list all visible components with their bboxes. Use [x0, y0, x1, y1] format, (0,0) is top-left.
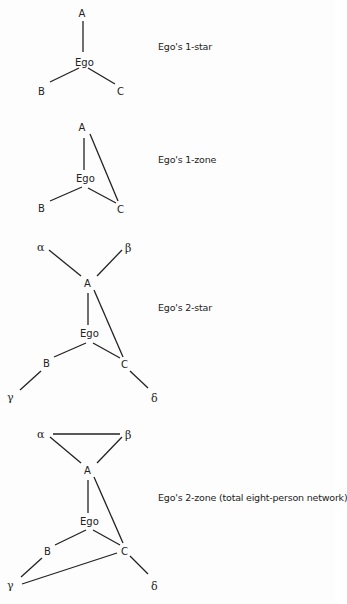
panel-two-star: α β A Ego B C γ δ	[7, 241, 158, 405]
edge-ego-b	[50, 187, 82, 201]
node-ego: Ego	[80, 328, 99, 339]
edge-ego-b	[55, 530, 86, 545]
node-c: C	[117, 86, 124, 97]
edge-b-gamma	[20, 371, 41, 390]
node-beta: β	[125, 242, 131, 255]
node-gamma: γ	[7, 579, 14, 592]
node-b: B	[38, 203, 45, 214]
caption-two-zone: Ego's 2-zone (total eight-person network…	[158, 492, 347, 503]
caption-one-star: Ego's 1-star	[158, 41, 212, 52]
edge-b-gamma	[21, 558, 42, 577]
node-b: B	[38, 86, 45, 97]
node-ego: Ego	[76, 173, 95, 184]
node-b: B	[44, 546, 51, 557]
panel-one-star: A Ego B C	[38, 8, 124, 97]
edge-alpha-a	[50, 437, 81, 463]
node-a: A	[79, 122, 86, 133]
node-c: C	[121, 359, 128, 370]
edge-ego-c	[88, 68, 115, 84]
caption-one-zone: Ego's 1-zone	[158, 154, 216, 165]
node-b: B	[43, 358, 50, 369]
edge-c-delta	[130, 556, 148, 574]
edge-c-delta	[130, 371, 148, 388]
node-beta: β	[125, 429, 131, 442]
caption-two-star: Ego's 2-star	[158, 302, 212, 313]
node-alpha: α	[37, 241, 45, 254]
edge-beta-a	[97, 437, 122, 463]
node-delta: δ	[151, 392, 158, 405]
node-ego: Ego	[75, 57, 94, 68]
panel-two-zone: α β A Ego B C γ δ	[7, 428, 158, 593]
node-ego: Ego	[80, 516, 99, 527]
edge-ego-b	[54, 343, 86, 357]
edge-ego-c	[93, 530, 120, 545]
panel-one-zone: A Ego B C	[38, 122, 124, 215]
edge-ego-b	[50, 68, 79, 82]
edge-ego-c	[88, 188, 116, 203]
node-delta: δ	[151, 580, 158, 593]
edge-alpha-a	[49, 250, 81, 276]
node-c: C	[121, 546, 128, 557]
edge-c-gamma	[22, 553, 117, 584]
edge-ego-c	[93, 343, 120, 358]
node-a: A	[84, 278, 91, 289]
node-alpha: α	[37, 428, 45, 441]
edge-a-c	[94, 290, 123, 357]
node-c: C	[117, 204, 124, 215]
edge-beta-a	[97, 250, 122, 276]
node-gamma: γ	[7, 391, 14, 404]
node-a: A	[79, 8, 86, 19]
node-a: A	[84, 465, 91, 476]
